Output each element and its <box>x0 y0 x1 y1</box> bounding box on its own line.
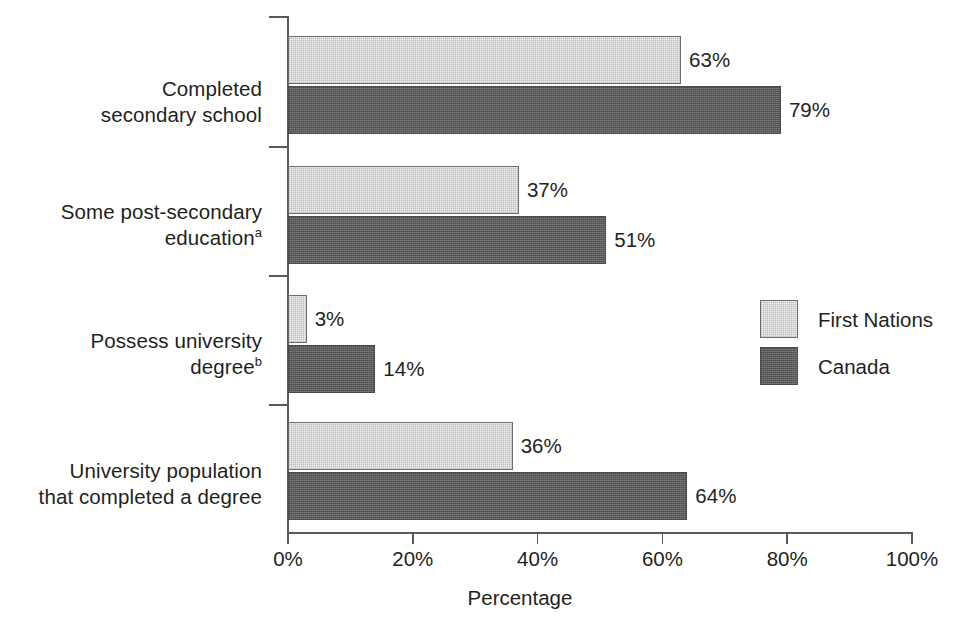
x-axis-line <box>287 532 913 534</box>
x-axis-title: Percentage <box>0 586 964 610</box>
category-tick-2 <box>269 275 288 277</box>
category-label-2: Possess university degreeb <box>90 302 262 380</box>
category-label-0: Completed secondary school <box>101 50 262 128</box>
bar-value-label-2-1: 14% <box>383 358 424 380</box>
legend-label-first-nations: First Nations <box>818 309 933 331</box>
bar-2-0 <box>288 295 307 343</box>
category-label-text-3: University population that completed a d… <box>39 459 262 508</box>
category-tick-1 <box>269 146 288 148</box>
legend-label-canada: Canada <box>818 356 890 378</box>
x-tick-label-3: 60% <box>642 547 683 571</box>
category-label-1: Some post-secondary educationa <box>61 173 262 251</box>
category-label-text-2: Possess university degree <box>90 329 262 378</box>
bar-value-label-1-1: 51% <box>614 229 655 251</box>
bar-1-0 <box>288 166 519 214</box>
bar-0-1 <box>288 86 781 134</box>
bar-3-1 <box>288 472 687 520</box>
category-label-text-0: Completed secondary school <box>101 77 262 126</box>
category-footnote-2: b <box>255 354 262 369</box>
legend-swatch-first-nations <box>760 300 798 338</box>
bar-3-0 <box>288 422 513 470</box>
x-tick-label-1: 20% <box>392 547 433 571</box>
bar-value-label-3-1: 64% <box>695 485 736 507</box>
bar-value-label-0-1: 79% <box>789 99 830 121</box>
category-tick-0 <box>269 16 288 18</box>
x-tick-label-0: 0% <box>273 547 303 571</box>
x-tick-5 <box>911 533 913 544</box>
x-tick-label-4: 80% <box>767 547 808 571</box>
bar-0-0 <box>288 36 681 84</box>
bar-value-label-3-0: 36% <box>521 435 562 457</box>
x-axis-title-text: Percentage <box>468 586 573 609</box>
category-label-text-1: Some post-secondary education <box>61 200 262 249</box>
x-tick-2 <box>537 533 539 544</box>
category-label-3: University population that completed a d… <box>39 432 262 510</box>
bar-1-1 <box>288 216 606 264</box>
horizontal-bar-chart: Completed secondary school Some post-sec… <box>0 0 964 638</box>
category-footnote-1: a <box>255 225 262 240</box>
x-tick-1 <box>412 533 414 544</box>
x-tick-0 <box>287 533 289 544</box>
category-tick-3 <box>269 404 288 406</box>
bar-value-label-1-0: 37% <box>527 179 568 201</box>
x-tick-label-2: 40% <box>517 547 558 571</box>
bar-value-label-0-0: 63% <box>689 49 730 71</box>
x-tick-4 <box>786 533 788 544</box>
x-tick-3 <box>662 533 664 544</box>
x-tick-label-5: 100% <box>886 547 938 571</box>
bar-2-1 <box>288 345 375 393</box>
bar-value-label-2-0: 3% <box>315 308 345 330</box>
legend-swatch-canada <box>760 347 798 385</box>
